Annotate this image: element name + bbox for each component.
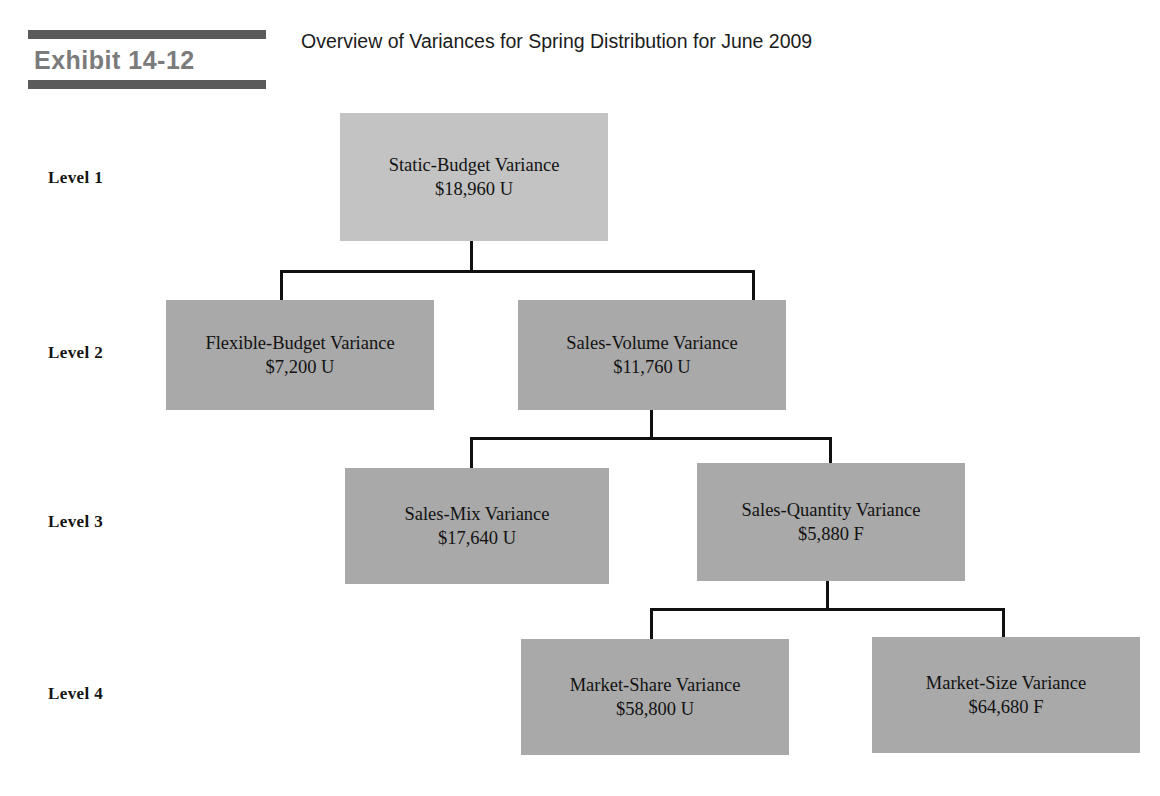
connector-l2-drop-left	[280, 270, 283, 302]
node-name: Market-Share Variance	[570, 673, 741, 697]
connector-l1-stem	[470, 240, 473, 272]
node-amount: $18,960 U	[435, 177, 513, 201]
connector-l2-stem	[650, 407, 653, 439]
node-amount: $7,200 U	[266, 355, 335, 379]
level-label-3: Level 3	[48, 512, 103, 532]
node-static-budget-variance[interactable]: Static-Budget Variance $18,960 U	[340, 113, 608, 241]
connector-l2-drop-right	[752, 270, 755, 302]
node-amount: $5,880 F	[798, 522, 864, 546]
node-name: Market-Size Variance	[926, 671, 1086, 695]
connector-l2-bar	[470, 437, 832, 440]
connector-l4-drop-right	[1002, 608, 1005, 640]
connector-l3-drop-left	[470, 437, 473, 469]
exhibit-rule-top	[28, 30, 266, 39]
connector-l1-bar	[280, 270, 755, 273]
node-sales-quantity-variance[interactable]: Sales-Quantity Variance $5,880 F	[697, 463, 965, 581]
node-name: Sales-Quantity Variance	[742, 498, 921, 522]
node-market-share-variance[interactable]: Market-Share Variance $58,800 U	[521, 639, 789, 755]
node-market-size-variance[interactable]: Market-Size Variance $64,680 F	[872, 637, 1140, 753]
node-amount: $17,640 U	[438, 526, 516, 550]
exhibit-page: Exhibit 14-12 Overview of Variances for …	[0, 0, 1160, 796]
node-flexible-budget-variance[interactable]: Flexible-Budget Variance $7,200 U	[166, 300, 434, 410]
exhibit-title: Overview of Variances for Spring Distrib…	[301, 30, 812, 53]
connector-l3-stem	[826, 578, 829, 610]
exhibit-label-block: Exhibit 14-12	[28, 30, 266, 89]
level-label-4: Level 4	[48, 684, 103, 704]
exhibit-number: Exhibit 14-12	[28, 43, 266, 77]
node-amount: $11,760 U	[613, 355, 690, 379]
exhibit-rule-bottom	[28, 80, 266, 89]
node-name: Sales-Mix Variance	[404, 502, 549, 526]
node-sales-mix-variance[interactable]: Sales-Mix Variance $17,640 U	[345, 468, 609, 584]
connector-l3-bar	[650, 608, 1005, 611]
node-name: Static-Budget Variance	[389, 153, 560, 177]
node-sales-volume-variance[interactable]: Sales-Volume Variance $11,760 U	[518, 300, 786, 410]
level-label-2: Level 2	[48, 343, 103, 363]
node-amount: $58,800 U	[616, 697, 694, 721]
level-label-1: Level 1	[48, 168, 103, 188]
node-name: Sales-Volume Variance	[566, 331, 737, 355]
connector-l4-drop-left	[650, 608, 653, 640]
node-name: Flexible-Budget Variance	[205, 331, 394, 355]
node-amount: $64,680 F	[968, 695, 1043, 719]
